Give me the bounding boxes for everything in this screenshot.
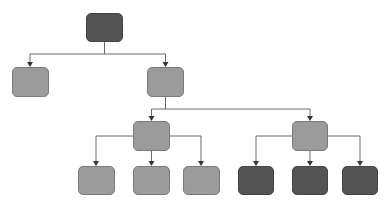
node-l3-5 xyxy=(292,166,328,195)
node-l3-6 xyxy=(342,166,378,195)
node-l2-right xyxy=(292,121,328,151)
edge-l1right-to-l2 xyxy=(152,97,311,118)
node-l2-left xyxy=(133,121,170,151)
node-l3-2 xyxy=(133,166,170,195)
tree-diagram xyxy=(0,0,392,210)
node-root xyxy=(86,13,123,42)
node-l3-1 xyxy=(78,166,115,195)
node-l3-3 xyxy=(183,166,220,195)
node-l1-right xyxy=(147,67,184,97)
edge-root-to-l1 xyxy=(30,42,166,64)
node-l3-4 xyxy=(238,166,274,195)
node-l1-left xyxy=(12,67,49,97)
